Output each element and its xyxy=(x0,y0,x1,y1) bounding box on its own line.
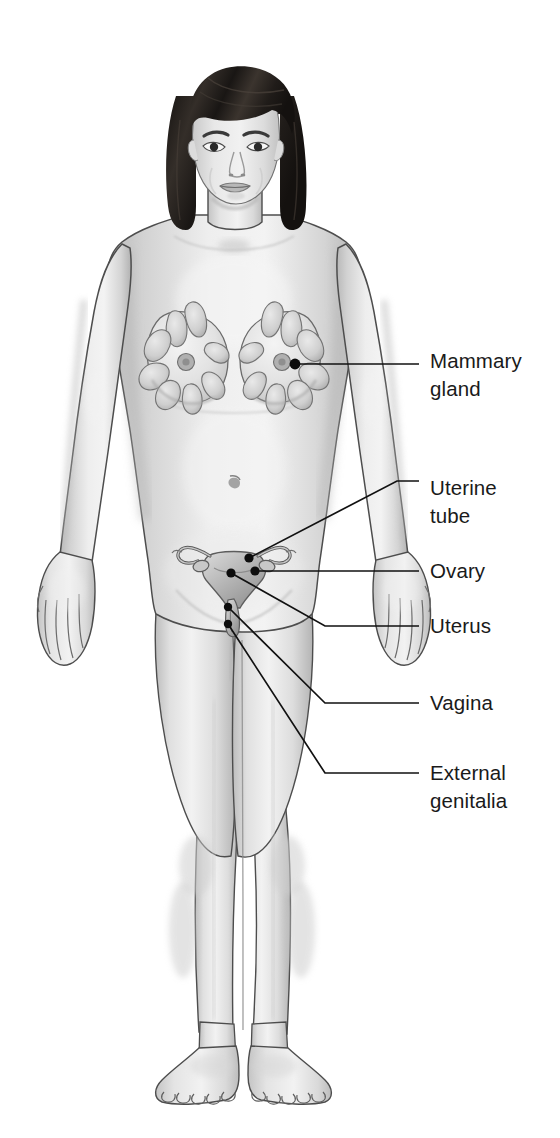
anchor-dot-ovary xyxy=(250,566,259,575)
label-ovary: Ovary xyxy=(430,559,486,582)
anatomy-illustration: Mammary gland Uterine tube Ovary Uterus … xyxy=(0,0,560,1138)
anchor-dot-mammary-gland xyxy=(290,359,301,370)
label-vagina: Vagina xyxy=(430,691,493,714)
anchor-dot-uterus xyxy=(226,568,235,577)
label-external-genitalia-line2: genitalia xyxy=(430,789,508,812)
label-uterus-line1: Uterus xyxy=(430,614,491,637)
label-uterine-tube-line2: tube xyxy=(430,504,470,527)
label-ovary-line1: Ovary xyxy=(430,559,486,582)
label-external-genitalia-line1: External xyxy=(430,761,506,784)
label-uterus: Uterus xyxy=(430,614,491,637)
anchor-dot-uterine-tube xyxy=(244,553,253,562)
label-vagina-line1: Vagina xyxy=(430,691,493,714)
label-mammary-gland-line2: gland xyxy=(430,377,481,400)
anchor-dot-vagina xyxy=(224,603,232,611)
anchor-dot-external-genitalia xyxy=(224,620,232,628)
label-mammary-gland-line1: Mammary xyxy=(430,349,522,372)
label-uterine-tube-line1: Uterine xyxy=(430,476,497,499)
